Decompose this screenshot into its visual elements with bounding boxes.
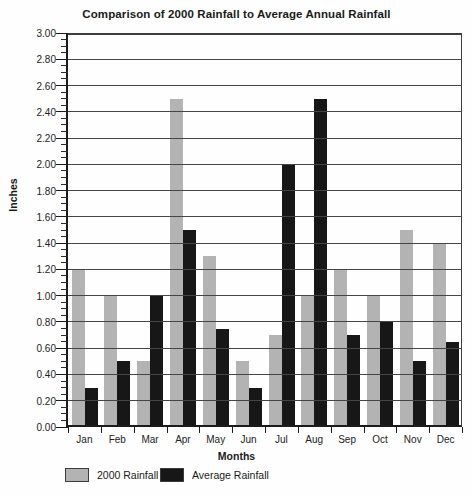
gridline-0.40 (68, 374, 462, 375)
bar-average-rainfall-mar (150, 296, 163, 427)
x-category-label-apr: Apr (167, 434, 200, 445)
y-minor-tick (61, 354, 68, 355)
y-minor-tick (61, 413, 68, 414)
bar-average-rainfall-jun (249, 388, 262, 427)
y-tick-label-0.40: 0.40 (18, 369, 56, 380)
legend-item-2000-rainfall: 2000 Rainfall (65, 468, 158, 482)
rainfall-bar-chart: Comparison of 2000 Rainfall to Average A… (0, 0, 473, 496)
bar-average-rainfall-aug (314, 99, 327, 427)
y-minor-tick (61, 249, 68, 250)
x-boundary-tick (429, 427, 430, 433)
bar-2000-rainfall-may (203, 256, 216, 427)
y-tick-label-2.80: 2.80 (18, 54, 56, 65)
y-major-tick-2.60 (56, 85, 68, 86)
bar-2000-rainfall-jun (236, 361, 249, 427)
x-boundary-tick (396, 427, 397, 433)
gridline-2.40 (68, 111, 462, 112)
x-category-label-nov: Nov (396, 434, 429, 445)
x-category-label-jun: Jun (232, 434, 265, 445)
bar-average-rainfall-jan (85, 388, 98, 427)
bar-2000-rainfall-jul (269, 335, 282, 427)
y-minor-tick (61, 98, 68, 99)
x-boundary-tick (298, 427, 299, 433)
y-major-tick-0.00 (56, 427, 68, 428)
y-tick-label-0.00: 0.00 (18, 422, 56, 433)
gridline-1.80 (68, 190, 462, 191)
y-minor-tick (61, 184, 68, 185)
y-major-tick-0.40 (56, 374, 68, 375)
gridline-0.80 (68, 321, 462, 322)
y-minor-tick (61, 289, 68, 290)
y-tick-label-1.00: 1.00 (18, 290, 56, 301)
y-minor-tick (61, 315, 68, 316)
x-category-label-may: May (199, 434, 232, 445)
y-major-tick-1.00 (56, 295, 68, 296)
y-minor-tick (61, 170, 68, 171)
y-major-tick-0.80 (56, 321, 68, 322)
y-minor-tick (61, 78, 68, 79)
y-minor-tick (61, 92, 68, 93)
y-minor-tick (61, 131, 68, 132)
y-minor-tick (61, 210, 68, 211)
y-tick-label-0.60: 0.60 (18, 343, 56, 354)
y-minor-tick (61, 177, 68, 178)
x-boundary-tick (462, 427, 463, 433)
gridline-2.00 (68, 164, 462, 165)
x-category-label-mar: Mar (134, 434, 167, 445)
y-minor-tick (61, 157, 68, 158)
bar-average-rainfall-apr (183, 230, 196, 427)
bar-2000-rainfall-aug (301, 296, 314, 427)
y-tick-label-2.00: 2.00 (18, 159, 56, 170)
x-category-label-jul: Jul (265, 434, 298, 445)
x-boundary-tick (199, 427, 200, 433)
bar-average-rainfall-sep (347, 335, 360, 427)
y-tick-label-1.60: 1.60 (18, 211, 56, 222)
legend-swatch-2000-rainfall (65, 468, 89, 482)
bar-average-rainfall-may (216, 329, 229, 428)
y-tick-label-2.40: 2.40 (18, 106, 56, 117)
gridline-0.60 (68, 348, 462, 349)
y-minor-tick (61, 302, 68, 303)
legend-swatch-average-rainfall (160, 468, 184, 482)
y-minor-tick (61, 124, 68, 125)
bar-2000-rainfall-nov (400, 230, 413, 427)
y-minor-tick (61, 105, 68, 106)
y-minor-tick (61, 275, 68, 276)
x-boundary-tick (331, 427, 332, 433)
y-major-tick-2.40 (56, 111, 68, 112)
x-boundary-tick (232, 427, 233, 433)
y-minor-tick (61, 361, 68, 362)
y-tick-label-1.40: 1.40 (18, 238, 56, 249)
y-minor-tick (61, 420, 68, 421)
y-minor-tick (61, 256, 68, 257)
gridline-1.00 (68, 295, 462, 296)
y-minor-tick (61, 407, 68, 408)
gridline-1.60 (68, 216, 462, 217)
y-minor-tick (61, 387, 68, 388)
y-minor-tick (61, 46, 68, 47)
y-major-tick-2.20 (56, 138, 68, 139)
chart-title: Comparison of 2000 Rainfall to Average A… (0, 8, 473, 20)
y-major-tick-1.80 (56, 190, 68, 191)
y-major-tick-1.40 (56, 243, 68, 244)
gridline-2.60 (68, 85, 462, 86)
y-minor-tick (61, 335, 68, 336)
bar-2000-rainfall-feb (104, 296, 117, 427)
y-tick-label-0.20: 0.20 (18, 395, 56, 406)
bar-average-rainfall-nov (413, 361, 426, 427)
y-minor-tick (61, 197, 68, 198)
y-major-tick-0.20 (56, 400, 68, 401)
y-major-tick-1.60 (56, 216, 68, 217)
gridline-2.20 (68, 138, 462, 139)
x-boundary-tick (364, 427, 365, 433)
gridline-1.40 (68, 243, 462, 244)
y-minor-tick (61, 65, 68, 66)
y-minor-tick (61, 236, 68, 237)
x-boundary-tick (167, 427, 168, 433)
y-minor-tick (61, 230, 68, 231)
bar-2000-rainfall-mar (137, 361, 150, 427)
bar-average-rainfall-dec (446, 342, 459, 427)
x-category-label-oct: Oct (364, 434, 397, 445)
x-category-label-aug: Aug (298, 434, 331, 445)
y-minor-tick (61, 52, 68, 53)
